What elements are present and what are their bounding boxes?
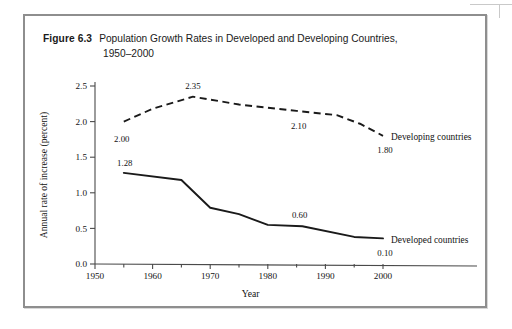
data-value-label: 2.10	[291, 121, 307, 131]
line-chart: 0.00.51.01.52.02.51950196019701980199020…	[25, 16, 485, 306]
data-value-label: 1.80	[377, 145, 393, 155]
y-axis-tick-label: 2.0	[76, 117, 88, 127]
data-value-label: 2.00	[114, 134, 130, 144]
x-axis-tick-label: 2000	[374, 271, 393, 281]
y-axis-tick-label: 2.5	[76, 81, 88, 91]
x-axis-title: Year	[242, 288, 260, 299]
y-axis-tick-label: 1.0	[76, 188, 88, 198]
data-value-label: 0.10	[377, 248, 393, 258]
x-axis-tick-label: 1950	[86, 271, 105, 281]
x-axis-tick-label: 1970	[201, 271, 220, 281]
page-canvas: Figure 6.3Population Growth Rates in Dev…	[0, 0, 512, 329]
chart-render-group: 0.00.51.01.52.02.51950196019701980199020…	[38, 81, 477, 299]
series-line-developed-countries	[124, 173, 383, 239]
x-axis-tick-label: 1980	[259, 271, 278, 281]
y-axis-tick-label: 1.5	[76, 152, 88, 162]
plot-area: 0.00.51.01.52.02.51950196019701980199020…	[25, 16, 485, 306]
y-axis-tick-label: 0.5	[76, 224, 88, 234]
series-end-label-developing-countries: Developing countries	[391, 132, 472, 142]
data-value-label: 2.35	[185, 81, 201, 91]
data-value-label: 0.60	[292, 210, 308, 220]
x-axis-tick-label: 1960	[143, 271, 162, 281]
y-axis-tick-label: 0.0	[76, 259, 88, 269]
series-line-developing-countries	[124, 97, 383, 136]
x-axis-tick-label: 1990	[316, 271, 335, 281]
crop-mark-vertical	[499, 4, 500, 18]
series-end-label-developed-countries: Developed countries	[391, 235, 469, 245]
crop-mark-horizontal	[470, 4, 512, 5]
data-value-label: 1.28	[117, 158, 133, 168]
figure-frame: Figure 6.3Population Growth Rates in Dev…	[23, 14, 487, 308]
y-axis-title: Annual rate of increase (percent)	[38, 112, 50, 238]
